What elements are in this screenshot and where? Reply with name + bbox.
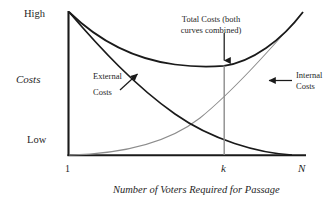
y-axis-low-label: Low bbox=[27, 134, 46, 146]
total-costs-annotation-line1: Total Costs (both bbox=[182, 14, 240, 24]
x-tick-label-1: 1 bbox=[65, 163, 70, 175]
total-costs-annotation: Total Costs (both curves combined) bbox=[163, 14, 259, 35]
x-tick-label-k: k bbox=[221, 162, 226, 175]
x-axis-title: Number of Voters Required for Passage bbox=[113, 184, 280, 196]
chart-figure: High Low Costs 1 k N Number of Voters Re… bbox=[0, 0, 334, 200]
external-costs-annotation-line2: Costs bbox=[93, 87, 112, 97]
total-costs-annotation-line2: curves combined) bbox=[181, 25, 242, 35]
y-axis-high-label: High bbox=[24, 8, 45, 20]
external-costs-annotation-line1: External bbox=[93, 71, 122, 81]
internal-costs-annotation-line2: Costs bbox=[296, 81, 315, 91]
x-tick-label-n: N bbox=[298, 162, 305, 175]
y-axis-title: Costs bbox=[16, 73, 40, 86]
internal-costs-annotation-line1: Internal bbox=[296, 70, 322, 80]
external-costs-annotation: External Costs bbox=[93, 68, 122, 100]
internal-costs-annotation: Internal Costs bbox=[296, 70, 322, 93]
